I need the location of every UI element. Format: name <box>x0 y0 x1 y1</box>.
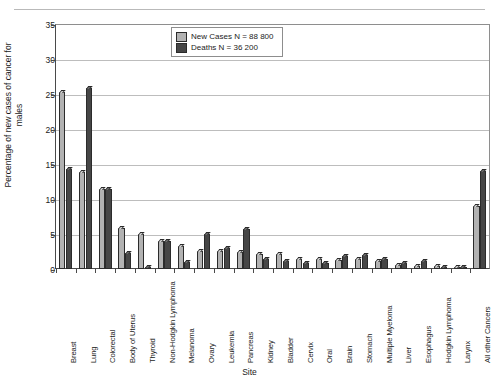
x-category-label: Esophagus <box>424 326 433 363</box>
bar-deaths <box>125 253 131 269</box>
x-category-label: Pancreas <box>246 332 255 363</box>
bar-new-cases <box>395 265 401 269</box>
x-category-label: Hodgkin Lymphoma <box>444 297 453 363</box>
legend-label-deaths: Deaths N = 36 200 <box>191 43 258 52</box>
y-tick-mark <box>51 130 55 131</box>
bar-new-cases <box>316 259 322 269</box>
bar-deaths <box>460 267 466 269</box>
bar-group <box>470 24 490 269</box>
bar-new-cases <box>158 241 164 269</box>
legend-swatch-deaths <box>176 43 187 53</box>
bar-group <box>431 24 451 269</box>
bar-deaths <box>342 256 348 269</box>
bar-group <box>234 24 254 269</box>
bar-deaths <box>224 248 230 269</box>
bar-deaths <box>164 241 170 269</box>
x-category-label: All other Cancers <box>483 306 492 363</box>
bar-group <box>155 24 175 269</box>
bar-group <box>391 24 411 269</box>
y-tick-mark <box>51 235 55 236</box>
bar-group <box>273 24 293 269</box>
bar-chart: 05101520253035 Percentage of new cases o… <box>0 0 499 384</box>
bar-new-cases <box>276 254 282 269</box>
legend-item-new-cases: New Cases N = 88 800 <box>176 31 274 42</box>
bar-new-cases <box>99 189 105 270</box>
bar-group <box>293 24 313 269</box>
bar-new-cases <box>138 234 144 269</box>
bar-new-cases <box>217 251 223 269</box>
x-category-label: Brain <box>345 346 354 363</box>
bar-deaths <box>381 259 387 270</box>
bar-group <box>352 24 372 269</box>
bar-deaths <box>283 261 289 269</box>
x-category-label: Lung <box>89 347 98 364</box>
x-category-label: Cervix <box>306 342 315 363</box>
y-tick-mark <box>51 60 55 61</box>
bar-deaths <box>145 267 151 269</box>
bar-deaths <box>105 189 111 270</box>
bar-new-cases <box>355 259 361 269</box>
legend-item-deaths: Deaths N = 36 200 <box>176 42 274 53</box>
x-category-label: Ovary <box>207 343 216 363</box>
bar-deaths <box>421 261 427 269</box>
bar-group <box>174 24 194 269</box>
x-category-label: Thyroid <box>148 338 157 363</box>
legend-label-new-cases: New Cases N = 88 800 <box>191 32 274 41</box>
bar-group <box>95 24 115 269</box>
bar-deaths <box>441 267 447 269</box>
bar-new-cases <box>79 172 85 269</box>
x-category-label: Colorectal <box>108 330 117 363</box>
x-category-label: Melanoma <box>187 328 196 363</box>
x-category-label: Kidney <box>266 340 275 363</box>
y-tick-mark <box>51 95 55 96</box>
bar-new-cases <box>59 92 65 269</box>
bar-deaths <box>480 171 486 269</box>
x-category-label: Leukemia <box>227 331 236 363</box>
x-category-label: Non-Hodgkin Lymphoma <box>168 281 177 363</box>
bar-group <box>135 24 155 269</box>
bar-group <box>332 24 352 269</box>
bar-new-cases <box>414 266 420 270</box>
bar-new-cases <box>473 206 479 269</box>
bar-deaths <box>66 169 72 269</box>
bar-new-cases <box>118 228 124 269</box>
bar-group <box>56 24 76 269</box>
bar-deaths <box>322 263 328 269</box>
bar-deaths <box>303 263 309 269</box>
bar-new-cases <box>375 261 381 269</box>
bar-new-cases <box>454 267 460 269</box>
bar-new-cases <box>256 254 262 269</box>
y-tick-mark <box>51 200 55 201</box>
x-category-label: Liver <box>404 347 413 363</box>
y-tick-mark <box>51 25 55 26</box>
bar-group <box>76 24 96 269</box>
x-category-label: Oral <box>325 349 334 363</box>
y-tick-mark <box>51 165 55 166</box>
x-category-label: Body of Uterus <box>128 314 137 363</box>
bar-deaths <box>184 262 190 269</box>
bar-new-cases <box>197 251 203 269</box>
x-axis-label: Site <box>0 367 499 377</box>
bar-group <box>214 24 234 269</box>
bar-deaths <box>263 259 269 269</box>
bar-group <box>253 24 273 269</box>
bar-new-cases <box>434 266 440 270</box>
bar-deaths <box>401 263 407 269</box>
y-tick-mark <box>51 270 55 271</box>
y-axis: 05101520253035 <box>22 24 55 270</box>
bar-new-cases <box>296 259 302 269</box>
x-category-label: Multiple Myeloma <box>385 306 394 363</box>
bar-deaths <box>86 88 92 269</box>
x-category-label: Bladder <box>286 338 295 363</box>
y-axis-label: Percentage of new cases of cancer for ma… <box>3 30 25 200</box>
bar-deaths <box>204 234 210 269</box>
bar-series-container <box>56 24 490 269</box>
bar-group <box>451 24 471 269</box>
bar-group <box>194 24 214 269</box>
chart-legend: New Cases N = 88 800 Deaths N = 36 200 <box>171 27 283 57</box>
bar-new-cases <box>237 252 243 270</box>
bar-group <box>312 24 332 269</box>
bar-new-cases <box>178 246 184 269</box>
x-category-label: Breast <box>69 342 78 363</box>
x-axis-category-labels: BreastLungColorectalBody of UterusThyroi… <box>56 271 490 366</box>
